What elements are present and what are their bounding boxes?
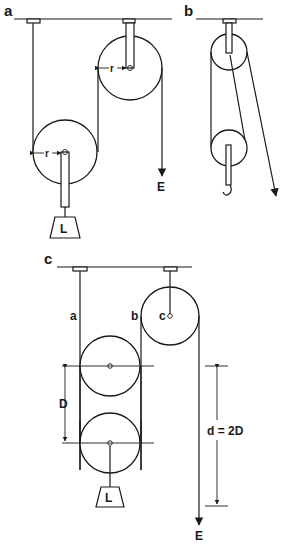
fixed-pulley-bracket [126, 23, 134, 68]
ceiling-mount-c-right [164, 267, 177, 271]
dimension-D-label: D [59, 397, 68, 411]
panel-a-label: a [4, 2, 13, 19]
rope-label-a: a [70, 309, 77, 323]
radius-label-upper: r [110, 63, 114, 74]
panel-c: c a c b D L E [44, 250, 244, 543]
effort-arrow-b [247, 52, 276, 196]
panel-b: b [184, 2, 276, 196]
ceiling-mount-left [27, 19, 40, 23]
movable-pulley-bracket [61, 152, 69, 207]
rope-label-b: b [131, 309, 138, 323]
dimension-d-label: d = 2D [207, 424, 244, 438]
hook-icon [223, 185, 231, 195]
panel-b-label: b [184, 2, 193, 19]
ceiling-mount-c-left [73, 267, 87, 271]
panel-a: a r E r L [4, 2, 172, 238]
panel-c-label: c [44, 250, 52, 267]
pulley-diagram: a r E r L b [0, 0, 287, 545]
pulley-label-c: c [159, 309, 166, 323]
effort-label-a: E [157, 180, 165, 194]
load-label-c: L [105, 491, 112, 505]
upper-bracket-b [226, 23, 232, 53]
effort-label-c: E [195, 529, 203, 543]
lower-bracket-b [226, 145, 231, 185]
load-label-a: L [60, 222, 67, 236]
radius-label-lower: r [45, 148, 49, 159]
